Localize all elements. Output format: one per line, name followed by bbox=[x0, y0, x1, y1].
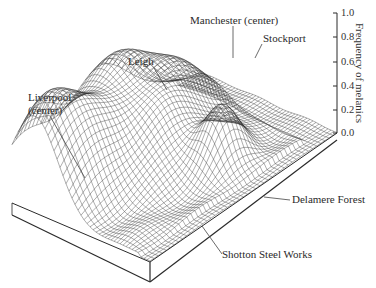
wireframe-surface bbox=[12, 49, 337, 261]
label-manchester: Manchester (center) bbox=[190, 14, 278, 26]
tick-0-0: 0.0 bbox=[341, 127, 354, 138]
label-stockport: Stockport bbox=[263, 32, 306, 44]
label-shotton-steel-works: Shotton Steel Works bbox=[222, 248, 312, 260]
label-leigh: Leigh bbox=[128, 55, 154, 67]
tick-0-8: 0.8 bbox=[341, 31, 354, 42]
tick-0-2: 0.2 bbox=[341, 104, 354, 115]
tick-1-0: 1.0 bbox=[341, 7, 354, 18]
z-axis-title: Frequency of melanics bbox=[354, 23, 366, 123]
label-liverpool-center: (center) bbox=[28, 104, 62, 116]
label-delamere-forest: Delamere Forest bbox=[292, 193, 365, 205]
tick-0-6: 0.6 bbox=[341, 56, 354, 67]
surface-plot bbox=[0, 0, 376, 288]
z-axis bbox=[333, 13, 337, 133]
tick-0-4: 0.4 bbox=[341, 80, 354, 91]
label-liverpool: Liverpool bbox=[28, 91, 71, 103]
